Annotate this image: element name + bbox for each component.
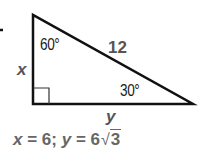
square-root: √3 [100,131,121,148]
answer-text: x = 6; y = 6√3 [13,131,121,148]
right-angle-marker [33,88,49,104]
answer-y-variable: y [62,130,71,149]
radicand: 3 [110,129,121,149]
hypotenuse-label: 12 [108,39,127,56]
leg-label-y: y [106,108,115,125]
leg-label-x: x [17,61,26,78]
angle-label-60: 60° [40,37,59,53]
angle-label-30: 30° [120,83,139,99]
radical-sign-icon: √ [101,131,110,148]
answer-y-value: = 6 [71,130,100,149]
right-triangle [33,15,193,104]
answer-x-value: = 6; [22,130,61,149]
